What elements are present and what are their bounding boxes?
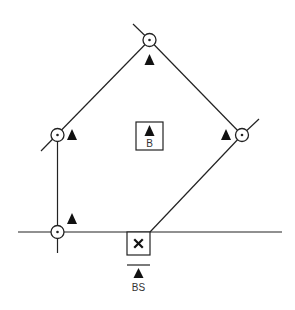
node-right — [236, 129, 249, 142]
triangle-icon-right — [221, 129, 231, 140]
triangle-icon-top — [145, 54, 155, 65]
triangle-icon-bottom-left — [67, 213, 77, 224]
triangle-icon-left — [67, 129, 77, 140]
home-box-x — [127, 232, 150, 255]
triangle-icon-bs — [134, 268, 144, 278]
field-diagram: B BS — [0, 0, 295, 310]
right-lower-diagonal-line — [150, 135, 242, 232]
node-top — [143, 34, 156, 47]
center-box-b: B — [136, 122, 163, 150]
node-bottom-left — [51, 226, 64, 239]
node-left — [51, 129, 64, 142]
bs-label: BS — [132, 282, 146, 293]
right-upper-diagonal-line — [150, 40, 243, 135]
bs-marker: BS — [127, 265, 150, 293]
center-box-label: B — [146, 138, 153, 149]
